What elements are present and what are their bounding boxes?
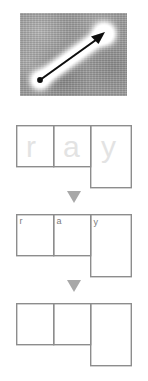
- cell-label-a: a: [57, 216, 62, 226]
- diagram-labeled-cells: r a y: [16, 214, 132, 278]
- arrow-overlay: [20, 13, 127, 96]
- micrograph-panel: [20, 13, 127, 96]
- cell-box-2: [54, 304, 91, 345]
- chevron-down-icon: [67, 191, 81, 203]
- cell-box-3: [91, 304, 132, 366]
- separator-arrow-2: [66, 279, 82, 293]
- diagram-empty-cells: [16, 303, 132, 367]
- ghost-letter-y: y: [101, 130, 116, 163]
- cell-label-r: r: [20, 216, 23, 226]
- diagram-ghost-letters: r a y: [16, 125, 132, 189]
- cell-label-y: y: [94, 217, 99, 227]
- ghost-letter-a: a: [63, 130, 80, 163]
- ghost-letter-r: r: [26, 130, 36, 163]
- arrow-shaft: [37, 32, 105, 83]
- cell-box-1: [17, 304, 54, 345]
- chevron-down-icon: [67, 280, 81, 292]
- figure-stage: r a y r a y: [0, 0, 148, 381]
- separator-arrow-1: [66, 190, 82, 204]
